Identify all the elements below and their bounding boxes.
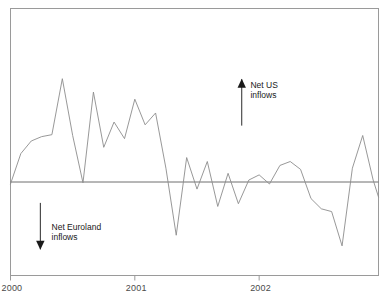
net-us-inflows-label-line-1: inflows [250,90,277,100]
net-us-inflows-label: Net USinflows [250,80,277,100]
chart-container: 200020012002 Net USinflowsNet Eurolandin… [0,0,388,296]
net-euroland-inflows-label: Net Eurolandinflows [52,222,102,242]
net-us-inflows-label-line-0: Net US [250,80,277,90]
x-tick-label-2000: 2000 [2,283,23,293]
data-series-line [11,79,379,246]
net-us-inflows-arrow-head [238,79,246,88]
net-euroland-inflows-label-line-0: Net Euroland [52,222,102,232]
net-euroland-inflows-label-line-1: inflows [52,232,102,242]
net-euroland-inflows-arrow-head [36,241,44,250]
x-tick-label-2001: 2001 [126,283,147,293]
line-chart [0,0,388,296]
x-tick-label-2002: 2002 [250,283,271,293]
